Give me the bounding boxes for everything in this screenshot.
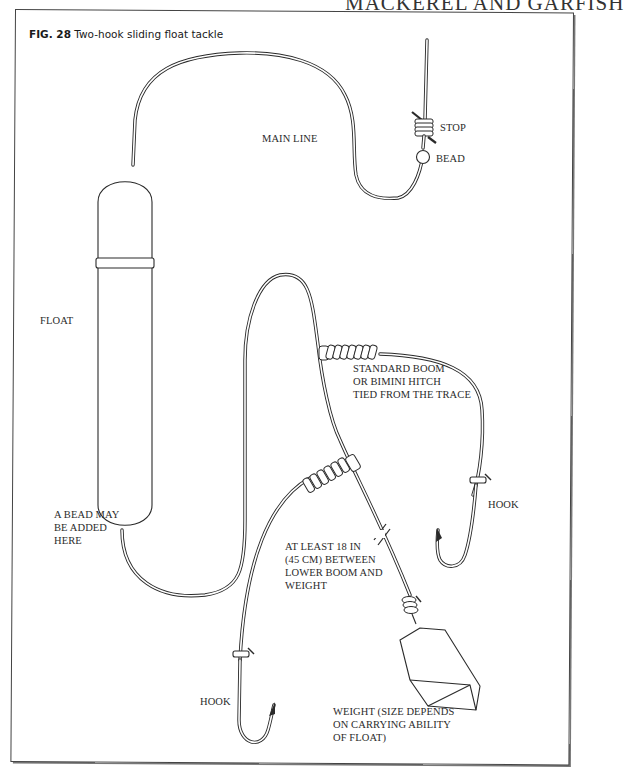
bead-icon <box>417 151 430 164</box>
float-icon <box>96 182 154 526</box>
hook-lower-icon <box>233 648 275 742</box>
label-hook-lower: HOOK <box>200 695 231 708</box>
label-bead-note: A BEAD MAY BE ADDED HERE <box>54 508 119 547</box>
label-boom-note: STANDARD BOOM OR BIMINI HITCH TIED FROM … <box>353 362 471 401</box>
label-float: FLOAT <box>40 314 73 327</box>
main-line <box>133 40 427 198</box>
weight-knot-icon <box>402 596 421 624</box>
lower-boom-knot-icon <box>302 454 361 494</box>
label-main-line: MAIN LINE <box>262 132 317 145</box>
label-weight-note: WEIGHT (SIZE DEPENDS ON CARRYING ABILITY… <box>333 705 454 744</box>
upper-boom-knot-icon <box>319 344 378 360</box>
label-stop: STOP <box>440 121 466 134</box>
weight-icon <box>400 628 480 710</box>
hook-right-icon <box>436 474 491 566</box>
label-hook-right: HOOK <box>488 498 519 511</box>
label-bead: BEAD <box>436 152 465 165</box>
label-distance-note: AT LEAST 18 IN (45 CM) BETWEEN LOWER BOO… <box>285 540 383 592</box>
